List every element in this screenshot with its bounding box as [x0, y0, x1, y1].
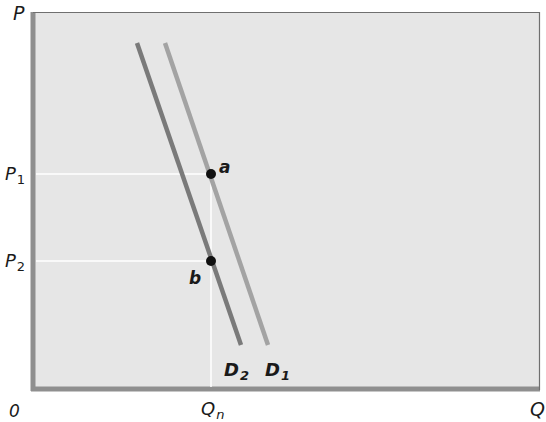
point-a-label: a: [219, 157, 230, 177]
p1-label: P1: [5, 163, 25, 187]
qn-label: Qn: [201, 398, 224, 422]
q-axis-label: Q: [530, 398, 545, 420]
plot-area: [32, 12, 540, 390]
p-axis-label: P: [13, 2, 25, 24]
origin-label: 0: [9, 401, 20, 421]
demand-shift-diagram: a b D2 D1 P Q 0 P1 P2 Qn: [0, 0, 546, 422]
point-b-label: b: [189, 268, 201, 288]
point-b: [206, 256, 216, 266]
point-a: [206, 169, 216, 179]
p2-label: P2: [5, 250, 25, 274]
